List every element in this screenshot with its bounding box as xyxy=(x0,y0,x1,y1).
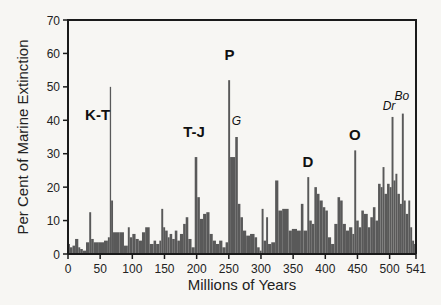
bar xyxy=(108,237,110,254)
bar xyxy=(400,204,402,254)
bar xyxy=(145,227,150,254)
bar-series xyxy=(68,80,416,254)
bar xyxy=(154,241,157,254)
bar xyxy=(375,221,378,254)
bar xyxy=(235,137,238,254)
x-tick-label: 50 xyxy=(93,262,107,276)
bar xyxy=(262,209,264,254)
bar xyxy=(317,194,320,254)
bar xyxy=(73,246,76,254)
annotation-label: D xyxy=(303,153,314,170)
bar xyxy=(177,241,180,254)
x-tick-label: 150 xyxy=(154,262,174,276)
y-axis: 010203040506070 xyxy=(47,14,68,262)
bar xyxy=(392,117,394,254)
annotation-label: O xyxy=(349,126,361,143)
bar xyxy=(331,244,334,254)
bar xyxy=(406,214,409,254)
bar xyxy=(370,217,373,254)
bar xyxy=(170,234,173,254)
bar xyxy=(113,232,119,254)
x-tick-label: 400 xyxy=(315,262,335,276)
bar xyxy=(183,224,186,254)
bar xyxy=(161,209,163,254)
bar xyxy=(384,194,387,254)
bar xyxy=(150,244,154,254)
bar xyxy=(387,184,390,254)
bar xyxy=(216,244,219,254)
bar xyxy=(230,157,235,254)
bar xyxy=(320,201,323,254)
bar xyxy=(228,80,230,254)
bar xyxy=(124,246,128,254)
bar xyxy=(119,232,124,254)
bar xyxy=(257,247,260,254)
annotation-label: P xyxy=(224,46,234,63)
bar xyxy=(104,241,108,254)
annotation-label: T-J xyxy=(183,123,205,140)
y-axis-title: Per Cent of Marine Extinction xyxy=(14,39,31,234)
bar xyxy=(172,239,175,254)
bar xyxy=(200,219,203,254)
bar xyxy=(180,234,183,254)
bar xyxy=(165,231,168,254)
y-tick-label: 10 xyxy=(47,214,61,228)
annotations: K-TT-JPGDODrBo xyxy=(85,46,409,170)
bar xyxy=(307,177,309,254)
bar xyxy=(188,239,191,254)
bar xyxy=(268,244,271,254)
bar xyxy=(243,231,246,254)
bar xyxy=(192,247,195,254)
x-tick-label: 250 xyxy=(219,262,239,276)
bar xyxy=(359,227,362,254)
bar xyxy=(266,217,268,254)
bar xyxy=(410,227,412,254)
bar xyxy=(381,187,383,254)
bar xyxy=(250,234,255,254)
bar xyxy=(325,211,328,254)
bar xyxy=(354,150,356,254)
bar xyxy=(128,227,130,254)
bar xyxy=(278,211,282,254)
bar xyxy=(364,214,368,254)
bar xyxy=(340,201,343,254)
bar xyxy=(338,197,341,254)
bar xyxy=(159,241,161,254)
bar xyxy=(255,237,258,254)
bar xyxy=(368,227,371,254)
bar xyxy=(303,231,307,254)
bar xyxy=(309,221,312,254)
bar xyxy=(264,241,267,254)
bar xyxy=(412,241,414,254)
y-tick-label: 30 xyxy=(47,147,61,161)
bar xyxy=(238,204,241,254)
bar xyxy=(373,207,376,254)
bar xyxy=(210,234,213,254)
bar xyxy=(397,194,400,254)
bar xyxy=(75,239,78,254)
bar xyxy=(404,201,406,254)
bar xyxy=(361,211,364,254)
bar xyxy=(352,234,354,254)
x-tick-label: 200 xyxy=(187,262,207,276)
y-tick-label: 60 xyxy=(47,47,61,61)
bar xyxy=(395,174,397,254)
bar xyxy=(289,231,292,254)
y-tick-label: 50 xyxy=(47,80,61,94)
bar xyxy=(206,212,209,254)
bar xyxy=(203,214,206,254)
bar xyxy=(402,114,404,254)
bar xyxy=(346,231,349,254)
bar xyxy=(334,224,337,254)
bar xyxy=(197,197,200,254)
bar xyxy=(186,217,189,254)
bar xyxy=(136,239,139,254)
bar xyxy=(156,244,159,254)
annotation-label: G xyxy=(232,114,241,128)
bar xyxy=(213,241,216,254)
y-tick-label: 70 xyxy=(47,14,61,28)
annotation-label: K-T xyxy=(85,106,110,123)
x-tick-label: 300 xyxy=(251,262,271,276)
bar xyxy=(168,237,170,254)
x-tick-label: 450 xyxy=(347,262,367,276)
